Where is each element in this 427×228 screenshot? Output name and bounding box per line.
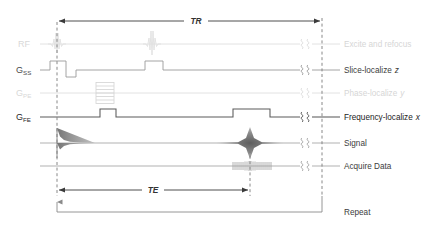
channel-description-acquire: Acquire Data xyxy=(344,162,392,171)
te-label: TE xyxy=(148,185,159,195)
pulse-sequence-diagram: TR TE RF GSS GPE GFE Excite and refocus … xyxy=(0,0,427,228)
gpe-axis-break xyxy=(301,88,309,98)
channel-description-signal: Signal xyxy=(344,139,367,148)
signal-spin-echo xyxy=(216,127,284,159)
tr-label: TR xyxy=(190,16,201,26)
channel-description-gfe: Frequency-localizex xyxy=(344,113,421,122)
channel-acquire xyxy=(40,161,340,171)
gss-waveform xyxy=(40,61,300,77)
event-markers xyxy=(57,18,322,196)
gpe-ladder xyxy=(96,83,114,104)
channel-label-gss: GSS xyxy=(16,65,31,76)
gfe-axis-break xyxy=(301,112,309,122)
signal-axis-break xyxy=(301,138,309,148)
sequence-canvas: TR TE RF GSS GPE GFE Excite and refocus … xyxy=(0,0,427,228)
channel-description-gss: Slice-localizez xyxy=(344,66,399,75)
channel-label-gfe: GFE xyxy=(16,112,31,123)
rf-axis-break xyxy=(301,39,309,49)
right-axis-labels: Excite and refocus Slice-localizez Phase… xyxy=(344,40,421,217)
left-axis-labels: RF GSS GPE GFE xyxy=(16,39,31,123)
channel-gss xyxy=(40,61,340,77)
channel-rf xyxy=(40,31,340,55)
repeat-loop-path xyxy=(57,196,322,212)
channel-label-rf: RF xyxy=(18,39,30,49)
channel-description-rf: Excite and refocus xyxy=(344,40,411,49)
channel-gpe xyxy=(40,83,340,104)
repeat-loop xyxy=(57,196,322,212)
channel-description-repeat: Repeat xyxy=(344,208,371,217)
channel-label-gpe: GPE xyxy=(16,88,31,99)
interval-te: TE xyxy=(59,185,248,195)
gfe-waveform xyxy=(40,109,300,117)
acquire-axis-break xyxy=(301,161,309,171)
signal-fid xyxy=(57,128,95,150)
channel-signal xyxy=(40,127,340,159)
channel-description-gpe: Phase-localizey xyxy=(344,89,405,98)
channel-gfe xyxy=(40,109,340,122)
gss-axis-break xyxy=(301,65,309,75)
rf-refocus-pulse xyxy=(143,31,161,55)
interval-tr: TR xyxy=(59,16,320,26)
